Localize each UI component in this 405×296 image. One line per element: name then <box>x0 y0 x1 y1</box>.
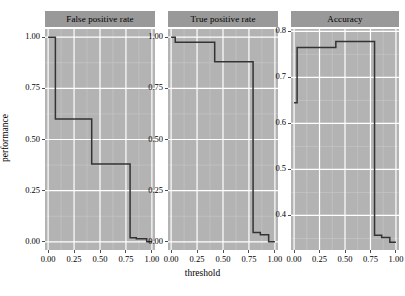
y-tick-label: 0.75 <box>126 82 163 92</box>
y-tick-mark <box>288 215 291 216</box>
y-tick-mark <box>42 241 45 242</box>
x-tick-mark <box>171 250 172 253</box>
panel-strip-label-1: False positive rate <box>45 11 155 27</box>
y-tick-mark <box>165 190 168 191</box>
y-tick-label: 1.00 <box>3 31 40 41</box>
y-tick-mark <box>165 241 168 242</box>
panel-canvas-3 <box>291 29 399 250</box>
y-tick-mark <box>42 37 45 38</box>
x-tick-mark <box>100 250 101 253</box>
y-tick-mark <box>165 37 168 38</box>
chart-root: performance threshold False positive rat… <box>0 0 405 296</box>
y-tick-mark <box>42 88 45 89</box>
y-tick-label: 1.00 <box>126 31 163 41</box>
y-tick-label: 0.75 <box>3 82 40 92</box>
y-tick-label: 0.00 <box>126 236 163 246</box>
x-tick-mark <box>395 250 396 253</box>
x-tick-mark <box>345 250 346 253</box>
x-tick-mark <box>294 250 295 253</box>
major-gridlines <box>291 29 399 250</box>
y-tick-label: 0.8 <box>249 25 286 35</box>
y-tick-label: 0.4 <box>249 209 286 219</box>
y-tick-mark <box>288 169 291 170</box>
y-tick-mark <box>165 139 168 140</box>
x-tick-mark <box>248 250 249 253</box>
y-tick-label: 0.6 <box>249 117 286 127</box>
x-tick-mark <box>197 250 198 253</box>
x-tick-mark <box>151 250 152 253</box>
y-tick-label: 0.25 <box>3 185 40 195</box>
y-tick-mark <box>288 123 291 124</box>
y-tick-mark <box>165 88 168 89</box>
panel-plot-area-3 <box>291 29 399 250</box>
x-tick-mark <box>48 250 49 253</box>
y-tick-label: 0.50 <box>126 134 163 144</box>
y-tick-mark <box>42 139 45 140</box>
panel-title-text: True positive rate <box>191 14 256 24</box>
x-tick-mark <box>74 250 75 253</box>
y-tick-mark <box>288 77 291 78</box>
y-tick-mark <box>288 31 291 32</box>
y-tick-label: 0.50 <box>3 134 40 144</box>
y-tick-label: 0.7 <box>249 71 286 81</box>
x-tick-mark <box>274 250 275 253</box>
x-tick-mark <box>223 250 224 253</box>
x-tick-mark <box>125 250 126 253</box>
y-tick-mark <box>42 190 45 191</box>
x-tick-mark <box>370 250 371 253</box>
y-tick-label: 0.25 <box>126 185 163 195</box>
y-tick-label: 0.00 <box>3 236 40 246</box>
panel-title-text: False positive rate <box>66 14 133 24</box>
y-tick-label: 0.5 <box>249 163 286 173</box>
panel-strip-label-3: Accuracy <box>291 11 399 27</box>
x-axis-title: threshold <box>0 268 405 278</box>
panel-title-text: Accuracy <box>327 14 362 24</box>
x-tick-label: 1.00 <box>378 254 405 264</box>
x-tick-mark <box>319 250 320 253</box>
